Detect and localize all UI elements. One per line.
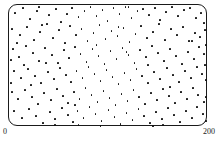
scatter-point bbox=[37, 103, 39, 105]
scatter-point bbox=[126, 51, 128, 53]
scatter-point bbox=[136, 68, 138, 70]
scatter-point bbox=[19, 34, 21, 36]
scatter-point bbox=[22, 7, 24, 9]
scatter-point bbox=[20, 77, 22, 79]
scatter-point bbox=[49, 111, 51, 113]
scatter-point bbox=[111, 30, 113, 32]
scatter-point bbox=[18, 56, 20, 58]
scatter-point bbox=[179, 121, 181, 123]
scatter-point bbox=[62, 95, 64, 97]
scatter-point bbox=[94, 73, 96, 75]
scatter-point bbox=[100, 80, 102, 82]
scatter-point bbox=[128, 54, 130, 56]
scatter-point bbox=[39, 31, 41, 33]
scatter-point bbox=[11, 28, 13, 30]
scatter-point bbox=[145, 56, 147, 58]
scatter-point bbox=[144, 103, 146, 105]
scatter-point bbox=[107, 20, 109, 22]
scatter-point bbox=[162, 88, 164, 90]
scatter-point bbox=[122, 47, 124, 49]
scatter-point bbox=[53, 78, 55, 80]
scatter-point bbox=[99, 24, 101, 26]
scatter-point bbox=[158, 23, 160, 25]
scatter-point bbox=[166, 67, 168, 69]
scatter-point bbox=[29, 18, 31, 20]
scatter-point bbox=[169, 86, 171, 88]
scatter-point bbox=[54, 124, 56, 126]
scatter-point bbox=[58, 29, 60, 31]
scatter-point bbox=[148, 14, 150, 16]
scatter-point bbox=[138, 96, 140, 98]
x-axis-min-label: 0 bbox=[3, 127, 7, 136]
scatter-point bbox=[33, 39, 35, 41]
scatter-point bbox=[87, 40, 89, 42]
scatter-point bbox=[163, 60, 165, 62]
scatter-point bbox=[143, 115, 145, 117]
scatter-point bbox=[74, 46, 76, 48]
scatter-point bbox=[183, 9, 185, 11]
scatter-point bbox=[146, 37, 148, 39]
scatter-point bbox=[182, 26, 184, 28]
scatter-point bbox=[77, 110, 79, 112]
scatter-point bbox=[162, 124, 164, 126]
scatter-point bbox=[109, 97, 111, 99]
scatter-point bbox=[184, 70, 186, 72]
scatter-point bbox=[205, 120, 207, 122]
scatter-point bbox=[116, 58, 118, 60]
scatter-point bbox=[190, 77, 192, 79]
scatter-point bbox=[191, 40, 193, 42]
scatter-point bbox=[21, 117, 23, 119]
scatter-point bbox=[194, 32, 196, 34]
scatter-point bbox=[43, 92, 45, 94]
scatter-point bbox=[75, 34, 77, 36]
scatter-point bbox=[42, 122, 44, 124]
scatter-point bbox=[203, 53, 205, 55]
scatter-point bbox=[152, 125, 154, 127]
scatter-point bbox=[11, 91, 13, 93]
scatter-point bbox=[70, 81, 72, 83]
scatter-point bbox=[192, 87, 194, 89]
scatter-point bbox=[14, 12, 16, 14]
scatter-point bbox=[61, 107, 63, 109]
scatter-point bbox=[123, 27, 125, 29]
scatter-point bbox=[142, 8, 144, 10]
scatter-point bbox=[167, 107, 169, 109]
scatter-point bbox=[168, 95, 170, 97]
figure-caption-text: — —— · —— bbox=[82, 147, 137, 151]
scatter-point bbox=[112, 76, 114, 78]
scatter-point bbox=[31, 96, 33, 98]
scatter-point bbox=[59, 67, 61, 69]
scatter-point bbox=[17, 98, 19, 100]
scatter-point bbox=[203, 22, 205, 24]
scatter-point bbox=[200, 12, 202, 14]
scatter-point bbox=[105, 38, 107, 40]
scatter-point bbox=[38, 60, 40, 62]
scatter-point bbox=[83, 117, 85, 119]
scatter-point bbox=[96, 15, 98, 17]
scatter-point bbox=[79, 98, 81, 100]
scatter-point bbox=[82, 77, 84, 79]
scatter-point bbox=[124, 72, 126, 74]
scatter-point bbox=[185, 110, 187, 112]
scatter-point bbox=[138, 108, 140, 110]
scatter-point bbox=[13, 70, 15, 72]
scatter-point bbox=[141, 75, 143, 77]
scatter-point bbox=[89, 106, 91, 108]
scatter-point bbox=[76, 70, 78, 72]
scatter-point bbox=[40, 82, 42, 84]
scatter-point bbox=[140, 25, 142, 27]
scatter-point bbox=[201, 73, 203, 75]
scatter-point bbox=[188, 40, 190, 42]
scatter-point bbox=[50, 99, 52, 101]
scatter-point bbox=[205, 79, 207, 81]
scatter-point bbox=[150, 92, 152, 94]
scatter-point bbox=[115, 104, 117, 106]
scatter-point bbox=[44, 47, 46, 49]
scatter-point bbox=[10, 82, 12, 84]
scatter-point bbox=[86, 61, 88, 63]
scatter-point bbox=[191, 117, 193, 119]
scatter-point bbox=[149, 122, 151, 124]
scatter-point bbox=[113, 7, 115, 9]
scatter-point bbox=[25, 45, 27, 47]
scatter-point bbox=[23, 64, 25, 66]
